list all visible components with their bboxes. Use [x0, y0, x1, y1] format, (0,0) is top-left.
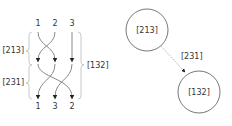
bottom-label-2: 3: [52, 102, 57, 111]
bottom-label-3: 2: [69, 102, 74, 111]
strand-c-lower: [55, 64, 72, 97]
bottom-label-1: 1: [35, 102, 40, 111]
edge-label-231: [231]: [181, 52, 203, 61]
brace-132: [78, 32, 84, 99]
brace-213: [26, 32, 32, 65]
strand-a-lower: [38, 64, 72, 97]
diagram-canvas: 1 2 3 1 3 2 [213] [231] [132] [213] [132…: [0, 0, 232, 126]
brace-label-231: [231]: [2, 78, 24, 87]
brace-231: [26, 65, 32, 99]
node-label-132: [132]: [188, 88, 210, 97]
brace-label-213: [213]: [2, 46, 24, 55]
cayley-graph: [213] [132] [231]: [126, 9, 220, 113]
braid-diagram: 1 2 3 1 3 2 [213] [231] [132]: [2, 19, 108, 111]
node-label-213: [213]: [136, 26, 158, 35]
brace-label-132: [132]: [87, 61, 109, 70]
strand-2-upper: [38, 32, 55, 60]
top-label-3: 3: [69, 19, 74, 28]
top-label-2: 2: [52, 19, 57, 28]
top-label-1: 1: [35, 19, 40, 28]
strand-b-lower: [38, 64, 55, 97]
